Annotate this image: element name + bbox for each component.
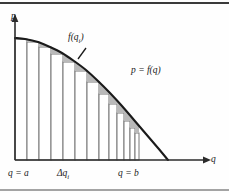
height-label: f(qi) <box>68 33 84 45</box>
callout-leader-line <box>78 48 86 59</box>
riemann-rectangle <box>130 128 135 160</box>
x-axis-arrowhead <box>203 157 211 164</box>
riemann-rectangle <box>117 113 124 160</box>
riemann-rectangle <box>15 39 27 160</box>
riemann-rectangle <box>87 82 99 160</box>
riemann-rectangle <box>51 54 63 160</box>
curve-equation-label: p = f(q) <box>131 66 161 76</box>
riemann-rectangle <box>39 47 51 160</box>
y-axis-label: p <box>11 12 16 22</box>
riemann-rectangle <box>63 62 75 160</box>
x-axis-label: q <box>211 155 216 165</box>
riemann-rectangle <box>124 121 130 160</box>
riemann-rectangle <box>27 42 39 160</box>
delta-q-subscript: i <box>67 173 69 180</box>
right-bound-label: q = b <box>118 169 139 179</box>
riemann-rectangle <box>109 104 117 160</box>
height-label-main: f(q <box>68 32 79 42</box>
riemann-sum-plot <box>0 0 229 193</box>
riemann-rectangle <box>99 94 109 160</box>
riemann-rectangle <box>75 71 87 160</box>
delta-q-label: Δqi <box>57 169 69 181</box>
height-label-tail: ) <box>80 32 83 42</box>
delta-q-main: Δq <box>57 168 67 178</box>
rectangle-series <box>15 39 139 160</box>
left-bound-label: q = a <box>8 169 29 179</box>
figure-container: p q f(qi) p = f(q) q = a Δqi q = b <box>0 0 229 193</box>
riemann-rectangle <box>135 133 139 160</box>
